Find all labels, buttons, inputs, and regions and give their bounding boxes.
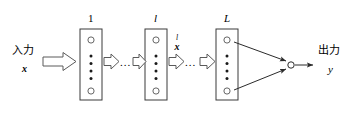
neural-network-diagram: 入力 x 出力 y 1 l L l x ... ... [0, 0, 352, 116]
block-arrow-input-to-layer1 [43, 53, 76, 71]
layer-box-1 [80, 29, 102, 100]
input-label: 入力 [12, 45, 34, 56]
block-arrow-ellipsis-to-layerL [200, 54, 215, 69]
layer-label-l: l [154, 13, 157, 24]
ellipsis-after-layer-1: ... [120, 57, 131, 68]
layer-label-L: L [224, 13, 230, 24]
layer-box-l [145, 29, 167, 100]
block-arrow-layer1-to-ellipsis [104, 54, 119, 69]
block-arrow-ellipsis-to-layerl [133, 54, 146, 69]
ellipsis-before-layer-L: ... [185, 57, 196, 68]
input-symbol: x [22, 64, 27, 74]
edge-layerL-bottom-to-output [234, 69, 286, 90]
output-node [288, 62, 294, 68]
intermediate-signal-symbol: l x [170, 34, 184, 52]
intermediate-signal-base: x [170, 42, 184, 52]
block-arrow-layerl-to-ellipsis [169, 54, 184, 69]
output-symbol: y [328, 64, 333, 75]
edge-layerL-top-to-output [234, 42, 286, 61]
output-label: 出力 [318, 45, 340, 56]
layer-label-1: 1 [88, 13, 94, 24]
diagram-canvas [0, 0, 352, 116]
